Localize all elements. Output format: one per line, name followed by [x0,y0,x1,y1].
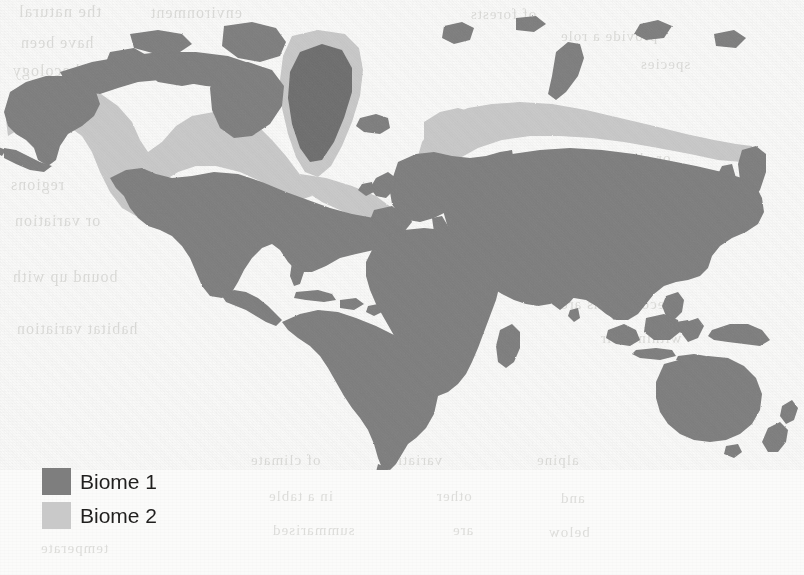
bleed-through-line: and [560,490,585,507]
legend-item-biome-2: Biome 2 [42,498,157,532]
biome-2-label: Biome 2 [80,505,157,526]
bleed-through-line: temperate [40,540,108,557]
map-halftone-grain [0,0,804,470]
biome-2-swatch [42,502,71,529]
biome-1-swatch [42,468,71,495]
bleed-through-line: are [452,522,473,539]
bleed-through-line: below [548,524,590,541]
world-map [0,0,804,470]
map-legend: Biome 1 Biome 2 [42,464,157,532]
bleed-through-line: other [436,488,472,505]
biome-1-label: Biome 1 [80,471,157,492]
bleed-through-line: in a table [268,488,333,505]
legend-item-biome-1: Biome 1 [42,464,157,498]
scanned-page: the naturalenvironmentof forestsprovide … [0,0,804,575]
bleed-through-line: summarised [272,522,355,539]
